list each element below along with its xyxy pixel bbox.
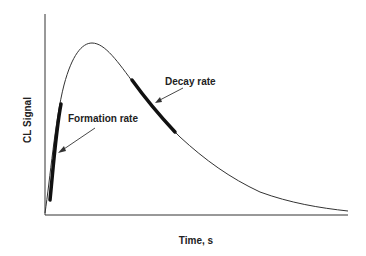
signal-curve xyxy=(45,43,348,213)
cl-signal-diagram: Formation rate Decay rate CL Signal Time… xyxy=(0,0,366,256)
decay-rate-segment xyxy=(132,80,175,132)
decay-arrow xyxy=(158,88,183,101)
decay-rate-label: Decay rate xyxy=(165,76,216,87)
formation-arrowhead-icon xyxy=(58,146,66,153)
x-axis-label: Time, s xyxy=(179,235,214,246)
y-axis-label: CL Signal xyxy=(22,97,33,143)
formation-rate-label: Formation rate xyxy=(68,113,138,124)
formation-arrow xyxy=(61,128,95,151)
decay-arrowhead-icon xyxy=(155,97,162,103)
